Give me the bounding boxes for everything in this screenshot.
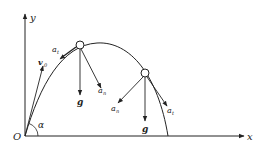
point1-tangential-arrow — [61, 47, 76, 58]
y-axis-label: y — [29, 12, 36, 23]
point2-normal-arrow — [118, 77, 143, 103]
trajectory-curve — [25, 43, 168, 136]
point2-gravity-label: g — [142, 124, 148, 134]
point1-gravity-label: g — [77, 97, 83, 107]
initial-velocity-label: v — [38, 57, 43, 67]
initial-velocity-subscript: 0 — [44, 62, 48, 68]
point1-normal-arrow — [81, 49, 101, 88]
angle-arc — [29, 124, 38, 137]
origin-label: O — [13, 131, 21, 142]
particle-1 — [76, 41, 84, 49]
projectile-diagram: y x O α v 0 a t g a n a n g a t — [0, 0, 260, 155]
point1-tangential-subscript: t — [57, 49, 60, 55]
x-axis-label: x — [247, 131, 253, 142]
angle-label: α — [38, 120, 44, 130]
particle-2 — [141, 69, 149, 77]
point2-tangential-subscript: t — [172, 110, 175, 116]
point2-tangential-arrow — [147, 77, 167, 106]
point1-normal-subscript: n — [103, 90, 106, 96]
point2-normal-subscript: n — [116, 108, 119, 114]
